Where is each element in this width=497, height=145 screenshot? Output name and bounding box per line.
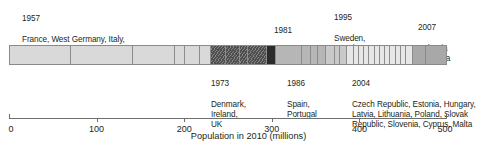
- axis-tick-400: [359, 118, 360, 122]
- x-axis-title: Population in 2010 (millions): [0, 131, 497, 142]
- annotation-1986-year: 1986: [287, 79, 317, 89]
- annotation-1973-year: 1973: [211, 79, 246, 89]
- annotation-1986: 1986 Spain, Portugal: [287, 69, 317, 130]
- chart-figure: 1957 France, West Germany, Italy, Belgiu…: [0, 0, 497, 145]
- annotation-2004-countries: Czech Republic, Estonia, Hungary, Latvia…: [352, 100, 476, 131]
- annotation-1957-year: 1957: [22, 14, 148, 24]
- annotation-2007-year: 2007: [418, 23, 450, 33]
- annotation-1995-year: 1995: [334, 13, 365, 23]
- x-axis: 0 100 200 300 400 500: [9, 118, 447, 119]
- bar-segment-2007: [413, 45, 447, 65]
- annotation-2007: 2007 Bulgaria Romania: [418, 13, 450, 74]
- bar-segment-1981: [267, 45, 277, 65]
- axis-tick-start: [9, 114, 10, 119]
- axis-tick-300: [272, 118, 273, 122]
- annotation-2004-year: 2004: [352, 79, 476, 89]
- bar-segment-1995: [326, 45, 347, 65]
- axis-tick-end: [446, 114, 447, 119]
- annotation-1973-countries: Denmark, Ireland, UK: [211, 100, 246, 131]
- annotation-1981-year: 1981: [274, 26, 300, 36]
- bar-segment-1957: [9, 45, 211, 65]
- stacked-bar: [9, 45, 447, 65]
- axis-tick-100: [97, 118, 98, 122]
- annotation-2004: 2004 Czech Republic, Estonia, Hungary, L…: [352, 69, 476, 140]
- axis-tick-200: [184, 118, 185, 122]
- annotation-1973: 1973 Denmark, Ireland, UK: [211, 69, 246, 140]
- annotation-1986-countries: Spain, Portugal: [287, 100, 317, 120]
